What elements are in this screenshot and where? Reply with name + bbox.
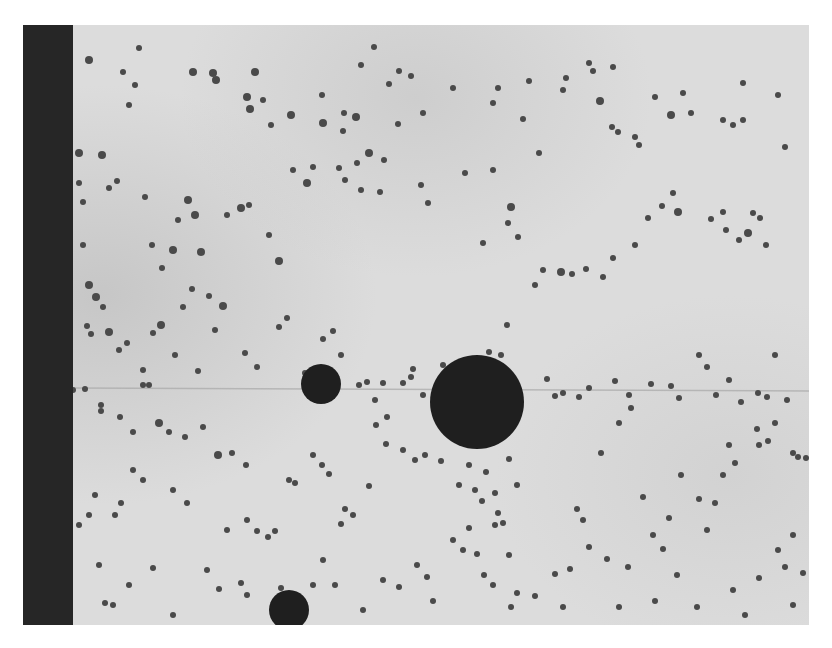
particle (290, 167, 296, 173)
particle (246, 105, 254, 113)
particle (224, 527, 230, 533)
particle (574, 506, 580, 512)
particle (408, 374, 414, 380)
particle (474, 551, 480, 557)
particle (338, 352, 344, 358)
particle (381, 157, 387, 163)
particle (425, 200, 431, 206)
particle (166, 429, 172, 435)
particle (310, 582, 316, 588)
particle (772, 352, 778, 358)
particle (667, 111, 675, 119)
particle (450, 85, 456, 91)
particle (740, 117, 746, 123)
particle (790, 450, 796, 456)
particle (157, 321, 165, 329)
particle (708, 216, 714, 222)
particle (180, 304, 186, 310)
particle (764, 394, 770, 400)
particle (740, 80, 746, 86)
particle (332, 582, 338, 588)
particle (560, 87, 566, 93)
particle (383, 441, 389, 447)
particle (532, 282, 538, 288)
particle (76, 522, 82, 528)
particle (342, 177, 348, 183)
particle (583, 266, 589, 272)
particle (358, 187, 364, 193)
particle (197, 248, 205, 256)
particle (326, 471, 332, 477)
particle (159, 265, 165, 271)
particle (342, 506, 348, 512)
particle (278, 585, 284, 591)
particle (360, 607, 366, 613)
particle (112, 512, 118, 518)
particle (146, 382, 152, 388)
particle (438, 458, 444, 464)
particle (790, 532, 796, 538)
particle (396, 68, 402, 74)
particle (216, 586, 222, 592)
particle (110, 602, 116, 608)
particle (140, 477, 146, 483)
particle (596, 97, 604, 105)
micrograph-image (23, 25, 809, 625)
particle (170, 487, 176, 493)
particle (763, 242, 769, 248)
particle (505, 220, 511, 226)
particle (272, 528, 278, 534)
particle (243, 462, 249, 468)
particle (668, 383, 674, 389)
particle (126, 582, 132, 588)
particle (730, 587, 736, 593)
particle (610, 255, 616, 261)
particle (117, 414, 123, 420)
particle (650, 532, 656, 538)
particle (492, 490, 498, 496)
particle (350, 512, 356, 518)
particle (636, 142, 642, 148)
particle (254, 528, 260, 534)
particle (712, 500, 718, 506)
particle (414, 562, 420, 568)
particle (212, 327, 218, 333)
particle (483, 469, 489, 475)
particle (209, 69, 217, 77)
particle (586, 60, 592, 66)
particle (755, 390, 761, 396)
particle (615, 129, 621, 135)
particle (803, 455, 809, 461)
particle (632, 134, 638, 140)
particle (365, 149, 373, 157)
particle (784, 397, 790, 403)
particle (765, 438, 771, 444)
particle (246, 202, 252, 208)
particle (552, 393, 558, 399)
particle (410, 366, 416, 372)
particle (124, 340, 130, 346)
particle (275, 257, 283, 265)
particle (756, 442, 762, 448)
particle (184, 500, 190, 506)
particle (536, 150, 542, 156)
particle (336, 165, 342, 171)
particle (303, 179, 311, 187)
particle (506, 456, 512, 462)
particle (756, 575, 762, 581)
particle (266, 232, 272, 238)
particle (229, 450, 235, 456)
particle (319, 462, 325, 468)
particle (659, 203, 665, 209)
particle (754, 426, 760, 432)
particle (114, 178, 120, 184)
particle (384, 414, 390, 420)
large-sphere (301, 364, 341, 404)
particle (481, 572, 487, 578)
particle (567, 566, 573, 572)
particle (310, 164, 316, 170)
particle (284, 315, 290, 321)
particle (142, 194, 148, 200)
particle (150, 330, 156, 336)
particle (380, 577, 386, 583)
